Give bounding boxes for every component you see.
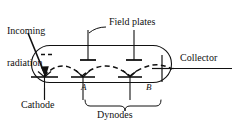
label-field-plates: Field plates xyxy=(109,17,155,28)
label-dynode-b: B xyxy=(146,83,152,92)
label-collector: Collector xyxy=(180,53,217,64)
dynode-electrode-b xyxy=(118,71,142,101)
field-plates-leader xyxy=(89,27,106,33)
incoming-radiation-line-1: Incoming xyxy=(7,26,45,37)
photomultiplier-diagram: Incoming radiation Field plates Collecto… xyxy=(0,0,234,127)
label-cathode: Cathode xyxy=(21,100,54,111)
label-incoming-radiation: Incoming radiation xyxy=(7,5,45,89)
label-dynodes: Dynodes xyxy=(97,110,133,121)
label-dynode-a: A xyxy=(81,83,87,92)
incoming-radiation-line-2: radiation xyxy=(7,58,45,69)
electron-path xyxy=(44,65,172,76)
